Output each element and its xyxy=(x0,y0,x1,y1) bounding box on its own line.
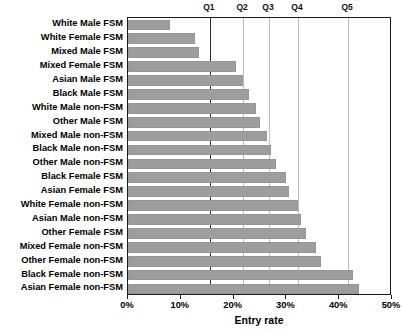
bar xyxy=(128,131,267,142)
entry-rate-bar-chart: White Male FSMWhite Female FSMMixed Male… xyxy=(0,0,404,332)
x-axis-tick xyxy=(285,295,286,299)
x-axis-tick xyxy=(391,295,392,299)
bar xyxy=(128,117,260,128)
y-axis-label: Asian Female FSM xyxy=(0,185,123,195)
x-axis-tick-label: 30% xyxy=(276,300,295,310)
bar xyxy=(128,228,306,239)
quartile-label-q3: Q3 xyxy=(262,2,273,12)
bar xyxy=(128,75,243,86)
quartile-label-q4: Q4 xyxy=(291,2,302,12)
y-axis-label: Other Male non-FSM xyxy=(0,157,123,167)
bar xyxy=(128,61,236,72)
x-axis-tick xyxy=(127,295,128,299)
bar xyxy=(128,20,170,31)
x-axis-tick xyxy=(180,295,181,299)
y-axis-label: White Female FSM xyxy=(0,32,123,42)
y-axis-label: White Male non-FSM xyxy=(0,102,123,112)
x-axis-tick-label: 50% xyxy=(382,300,401,310)
bar xyxy=(128,145,271,156)
bar xyxy=(128,242,316,253)
y-axis-label: Other Female FSM xyxy=(0,227,123,237)
bar xyxy=(128,89,249,100)
x-axis-tick-label: 40% xyxy=(329,300,348,310)
y-axis-label: Asian Male FSM xyxy=(0,74,123,84)
bar xyxy=(128,33,195,44)
bar xyxy=(128,47,199,58)
bar xyxy=(128,159,276,170)
y-axis-label: Mixed Male FSM xyxy=(0,46,123,56)
x-axis-tick-label: 10% xyxy=(170,300,189,310)
x-axis-tick xyxy=(233,295,234,299)
quartile-label-q5: Q5 xyxy=(342,2,353,12)
bar xyxy=(128,200,298,211)
bar xyxy=(128,172,286,183)
y-axis-label: Other Male FSM xyxy=(0,116,123,126)
y-axis-label: White Female non-FSM xyxy=(0,199,123,209)
bar xyxy=(128,270,353,281)
y-axis-label: Mixed Female non-FSM xyxy=(0,241,123,251)
y-axis-label: Asian Male non-FSM xyxy=(0,213,123,223)
y-axis-label: Black Male non-FSM xyxy=(0,143,123,153)
quartile-label-q2: Q2 xyxy=(236,2,247,12)
y-axis-label: Other Female non-FSM xyxy=(0,255,123,265)
y-axis-label: Black Male FSM xyxy=(0,88,123,98)
bar xyxy=(128,214,301,225)
bar xyxy=(128,256,321,267)
bar xyxy=(128,284,359,295)
y-axis-label: Asian Female non-FSM xyxy=(0,282,123,292)
bar xyxy=(128,103,256,114)
y-axis-label: Mixed Female FSM xyxy=(0,60,123,70)
x-axis-tick xyxy=(338,295,339,299)
quartile-label-q1: Q1 xyxy=(203,2,214,12)
x-axis-title: Entry rate xyxy=(127,314,391,326)
bar xyxy=(128,186,289,197)
plot-area xyxy=(127,17,391,295)
x-axis-tick-label: 20% xyxy=(223,300,242,310)
y-axis-label: Mixed Male non-FSM xyxy=(0,130,123,140)
y-axis-label: White Male FSM xyxy=(0,18,123,28)
y-axis-category-labels: White Male FSMWhite Female FSMMixed Male… xyxy=(0,17,123,295)
x-axis-tick-label: 0% xyxy=(120,300,133,310)
y-axis-label: Black Female FSM xyxy=(0,171,123,181)
y-axis-label: Black Female non-FSM xyxy=(0,269,123,279)
bars-group xyxy=(128,18,390,294)
